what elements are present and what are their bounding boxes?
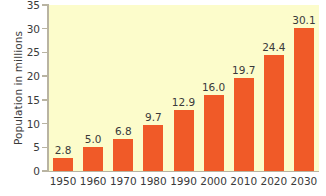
y-tick-label: 10	[0, 119, 40, 130]
y-tick-label: 0	[0, 166, 40, 177]
bar	[264, 55, 284, 171]
bar-value-label: 6.8	[103, 126, 143, 137]
bar-chart: Population in millions 05101520253035 2.…	[0, 0, 326, 196]
y-tick-mark	[42, 52, 47, 54]
y-tick-mark	[42, 28, 47, 30]
bar-value-label: 12.9	[164, 97, 204, 108]
bar	[234, 78, 254, 171]
y-tick-label: 25	[0, 47, 40, 58]
bar-value-label: 16.0	[194, 82, 234, 93]
y-tick-label: 30	[0, 24, 40, 35]
bar	[113, 139, 133, 171]
y-tick-label: 35	[0, 0, 40, 11]
x-tick-label: 2030	[284, 176, 324, 187]
bar	[83, 147, 103, 171]
y-tick-mark	[42, 170, 47, 172]
bar	[204, 95, 224, 171]
y-tick-label: 15	[0, 95, 40, 106]
bar	[143, 125, 163, 171]
bar-value-label: 19.7	[224, 65, 264, 76]
y-tick-label: 5	[0, 142, 40, 153]
y-tick-mark	[42, 99, 47, 101]
y-tick-mark	[42, 123, 47, 125]
bar-value-label: 30.1	[284, 15, 324, 26]
bar-value-label: 9.7	[133, 112, 173, 123]
y-tick-label: 20	[0, 71, 40, 82]
bar	[294, 28, 314, 171]
y-tick-mark	[42, 4, 47, 6]
y-axis-title: Population in millions	[12, 13, 24, 163]
bar-value-label: 24.4	[254, 42, 294, 53]
bar-value-label: 2.8	[43, 145, 83, 156]
y-tick-mark	[42, 75, 47, 77]
bar	[174, 110, 194, 171]
bar	[53, 158, 73, 171]
